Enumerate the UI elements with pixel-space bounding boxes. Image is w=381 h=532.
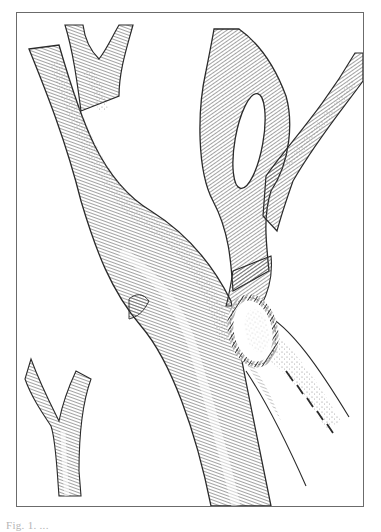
figure-frame (16, 12, 364, 507)
vessel-illustration (17, 13, 364, 507)
lower-left-branch (25, 359, 91, 496)
upper-right-loop-vessel (200, 29, 290, 291)
figure-caption: Fig. 1. ... (6, 518, 376, 532)
